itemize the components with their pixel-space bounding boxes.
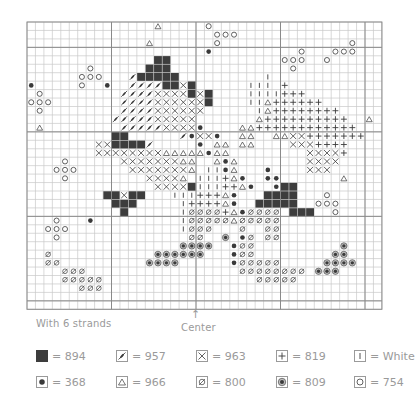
- stitch-cell: [307, 99, 313, 105]
- stitch-cell: [223, 142, 229, 147]
- stitch-cell: [180, 133, 186, 139]
- stitch-cell: [282, 125, 288, 131]
- stitch-cell: [249, 184, 254, 189]
- stitch-cell: [121, 192, 127, 198]
- stitch-cell: [341, 260, 347, 266]
- stitch-cell: [130, 116, 136, 122]
- stitch-cell: [248, 134, 254, 139]
- stitch-cell: [155, 175, 161, 181]
- stitch-cell: [206, 210, 211, 215]
- stitch-cell: [138, 150, 144, 156]
- stitch-cell: [172, 108, 178, 114]
- stitch-cell: [198, 235, 203, 240]
- stitch-cell: [147, 91, 153, 97]
- legend-label: = 966: [132, 376, 166, 389]
- stitch-cell: [333, 210, 338, 215]
- stitch-cell: [248, 218, 253, 223]
- stitch-cell: [223, 159, 228, 164]
- vertical-bar-icon: [354, 350, 366, 362]
- center-arrow-icon: ↑: [191, 308, 200, 321]
- stitch-cell: [189, 210, 194, 215]
- stitch-cell: [332, 150, 338, 156]
- stitch-cell: [341, 133, 347, 139]
- stitch-cell: [103, 191, 111, 199]
- stitch-cell: [232, 244, 237, 249]
- stitch-cell: [129, 141, 137, 149]
- stitch-cell: [163, 73, 171, 81]
- stitch-cell: [113, 116, 119, 122]
- stitch-cell: [138, 158, 144, 164]
- stitch-cell: [79, 286, 84, 291]
- stitch-cell: [172, 99, 178, 105]
- stitch-cell: [231, 218, 237, 223]
- stitch-cell: [223, 175, 229, 181]
- stitch-cell: [214, 150, 220, 155]
- stitch-cell: [155, 260, 161, 266]
- stitch-cell: [307, 116, 313, 122]
- stitch-cell: [291, 57, 296, 62]
- stitch-cell: [231, 210, 237, 215]
- stitch-cell: [290, 133, 296, 139]
- stitch-cell: [130, 125, 136, 131]
- stitch-cell: [248, 269, 253, 274]
- stitch-cell: [180, 82, 186, 88]
- stitch-cell: [291, 277, 296, 282]
- stitch-cell: [188, 90, 196, 98]
- stitch-cell: [147, 150, 153, 156]
- stitch-cell: [265, 277, 270, 282]
- stitch-cell: [147, 158, 153, 164]
- plus-icon: [276, 350, 288, 362]
- stitch-cell: [88, 66, 93, 71]
- stitch-cell: [307, 108, 313, 114]
- stitch-cell: [333, 49, 338, 54]
- stitch-cell: [163, 81, 171, 89]
- stitch-cell: [171, 73, 179, 81]
- stitch-cell: [197, 99, 203, 105]
- stitch-cell: [79, 277, 84, 282]
- stitch-cell: [274, 269, 279, 274]
- stitch-cell: [299, 99, 305, 105]
- stitch-cell: [121, 108, 127, 114]
- stitch-cell: [163, 150, 169, 155]
- stitch-cell: [341, 49, 346, 54]
- stitch-cell: [172, 175, 178, 181]
- stitch-cell: [282, 91, 288, 97]
- stitch-cell: [281, 183, 289, 191]
- stitch-cell: [189, 150, 195, 155]
- legend-label: = 809: [292, 376, 326, 389]
- legend-label: = 957: [132, 350, 166, 363]
- stitch-cell: [163, 65, 171, 73]
- stitch-cell: [289, 191, 297, 199]
- stitch-cell: [341, 116, 347, 122]
- stitch-cell: [350, 41, 355, 46]
- stitch-cell: [324, 268, 330, 274]
- stitch-cell: [248, 142, 254, 147]
- stitch-cell: [223, 168, 228, 173]
- stitch-cell: [180, 159, 186, 164]
- stitch-cell: [273, 134, 279, 139]
- stitch-cell: [147, 41, 153, 46]
- stitch-cell: [180, 167, 186, 173]
- stitch-cell: [223, 193, 229, 198]
- stitch-cell: [332, 125, 338, 131]
- stitch-cell: [306, 208, 314, 216]
- triangle-icon: [116, 376, 128, 388]
- stitch-cell: [274, 218, 279, 223]
- stitch-cell: [350, 49, 355, 54]
- stitch-cell: [341, 142, 347, 148]
- stitch-cell: [240, 184, 246, 189]
- stitch-cell: [257, 277, 262, 282]
- stitch-cell: [180, 99, 186, 105]
- stitch-cell: [163, 116, 169, 122]
- stitch-cell: [146, 65, 154, 73]
- stitch-cell: [264, 191, 272, 199]
- stitch-cell: [130, 82, 136, 88]
- stitch-cell: [62, 269, 67, 274]
- stitch-cell: [112, 141, 120, 149]
- slash-leaf-icon: [116, 350, 128, 362]
- stitch-cell: [189, 235, 194, 240]
- grid-lines: [27, 22, 382, 309]
- stitch-cell: [341, 243, 347, 249]
- stitch-cell: [137, 73, 145, 81]
- stitch-cell: [324, 125, 330, 131]
